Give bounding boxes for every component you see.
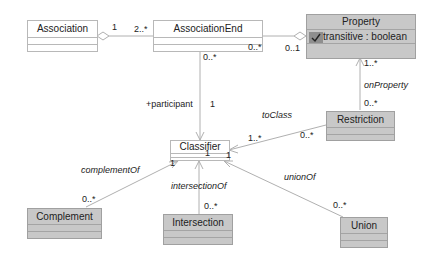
attributes-compartment bbox=[327, 128, 394, 135]
class-name: Association bbox=[28, 21, 97, 38]
mult-participant-target: 1 bbox=[210, 99, 215, 109]
mult-association-end-target: 2..* bbox=[134, 24, 148, 34]
class-name: Classifier bbox=[171, 141, 229, 154]
attribute-transitive[interactable]: transitive : boolean bbox=[323, 31, 407, 42]
class-name: Restriction bbox=[327, 112, 394, 128]
mult-end-property-target: 0..1 bbox=[285, 43, 300, 53]
class-complement[interactable]: Complement bbox=[27, 208, 102, 239]
aggregation-diamond-association bbox=[97, 32, 109, 40]
mult-participant-source: 0..* bbox=[203, 52, 217, 62]
mult-onproperty-source: 0..* bbox=[364, 98, 378, 108]
operations-compartment bbox=[164, 238, 232, 244]
name-unionof: unionOf bbox=[284, 172, 316, 182]
name-onproperty: onProperty bbox=[364, 80, 408, 90]
attributes-compartment bbox=[28, 225, 101, 232]
operations-compartment bbox=[307, 44, 415, 58]
attributes-compartment: transitive : boolean bbox=[307, 30, 415, 44]
attribute-icon bbox=[309, 32, 323, 43]
mult-intersectionof-target: 1 bbox=[205, 148, 210, 158]
name-complementof: complementOf bbox=[81, 165, 140, 175]
mult-association-end-source: 1 bbox=[112, 22, 117, 32]
name-toclass: toClass bbox=[262, 110, 292, 120]
mult-onproperty-target: 1..* bbox=[364, 58, 378, 68]
class-name: Union bbox=[341, 218, 387, 234]
class-name: Property bbox=[307, 15, 415, 30]
mult-unionof-source: 0..* bbox=[333, 200, 347, 210]
arrowhead-unionof bbox=[224, 161, 233, 167]
class-name: AssociationEnd bbox=[154, 21, 262, 38]
operations-compartment bbox=[154, 45, 262, 51]
class-restriction[interactable]: Restriction bbox=[326, 111, 395, 141]
class-association-end[interactable]: AssociationEnd bbox=[153, 20, 263, 52]
aggregation-diamond-property bbox=[294, 32, 306, 40]
class-name: Complement bbox=[28, 209, 101, 225]
role-participant: +participant bbox=[146, 99, 193, 109]
class-property[interactable]: Property transitive : boolean bbox=[306, 14, 416, 59]
operations-compartment bbox=[28, 45, 97, 51]
attributes-compartment bbox=[154, 38, 262, 45]
attributes-compartment bbox=[341, 234, 387, 241]
class-intersection[interactable]: Intersection bbox=[163, 214, 233, 245]
connector-unionof bbox=[224, 161, 343, 217]
class-association[interactable]: Association bbox=[27, 20, 98, 52]
class-union[interactable]: Union bbox=[340, 217, 388, 248]
mult-toclass-target: 1..* bbox=[248, 133, 262, 143]
name-intersectionof: intersectionOf bbox=[171, 181, 227, 191]
operations-compartment bbox=[327, 135, 394, 140]
mult-complementof-target: 1 bbox=[170, 158, 175, 168]
operations-compartment bbox=[171, 158, 229, 161]
mult-toclass-source: 0..* bbox=[300, 130, 314, 140]
operations-compartment bbox=[28, 232, 101, 238]
attributes-compartment bbox=[28, 38, 97, 45]
class-name: Intersection bbox=[164, 215, 232, 231]
mult-intersectionof-source: 0..* bbox=[204, 201, 218, 211]
attributes-compartment bbox=[164, 231, 232, 238]
mult-unionof-target: 1 bbox=[226, 150, 231, 160]
operations-compartment bbox=[341, 241, 387, 247]
mult-complementof-source: 0..* bbox=[82, 194, 96, 204]
class-classifier[interactable]: Classifier bbox=[170, 140, 230, 161]
mult-end-property-source: 0..* bbox=[248, 42, 262, 52]
